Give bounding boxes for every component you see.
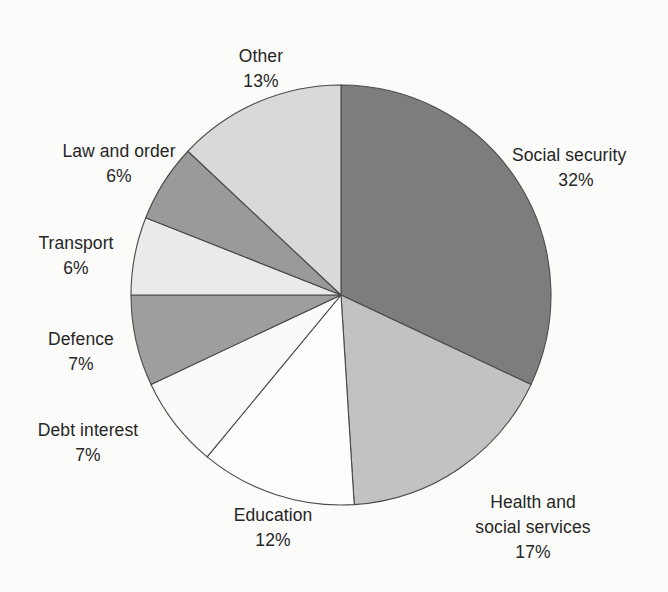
pie-label-other-value: 13% <box>196 69 326 94</box>
pie-label-health-line1: Health and <box>448 490 618 515</box>
pie-label-social-security-value: 32% <box>512 168 640 193</box>
pie-label-defence-value: 7% <box>26 352 136 377</box>
pie-label-transport-name: Transport <box>16 231 136 256</box>
pie-label-education-name: Education <box>208 503 338 528</box>
pie-label-education-value: 12% <box>208 528 338 553</box>
pie-label-social-security-name: Social security <box>512 143 662 168</box>
pie-label-health-value: 17% <box>448 540 618 565</box>
pie-label-debt-interest-name: Debt interest <box>18 418 158 443</box>
pie-label-education: Education 12% <box>208 503 338 553</box>
pie-label-law-and-order-name: Law and order <box>50 139 188 164</box>
pie-label-debt-interest: Debt interest 7% <box>18 418 158 468</box>
pie-label-transport-value: 6% <box>16 256 136 281</box>
pie-chart: Other 13% Social security 32% Law and or… <box>0 0 668 592</box>
pie-label-other: Other 13% <box>196 44 326 94</box>
pie-label-defence: Defence 7% <box>26 327 136 377</box>
pie-label-social-security: Social security 32% <box>512 143 662 193</box>
pie-label-debt-interest-value: 7% <box>18 443 158 468</box>
pie-label-defence-name: Defence <box>26 327 136 352</box>
pie-label-other-name: Other <box>196 44 326 69</box>
pie-label-health-line2: social services <box>448 515 618 540</box>
pie-label-law-and-order: Law and order 6% <box>50 139 188 189</box>
pie-slices-group <box>131 85 551 505</box>
pie-label-transport: Transport 6% <box>16 231 136 281</box>
pie-label-health-and-social-services: Health and social services 17% <box>448 490 618 565</box>
pie-label-law-and-order-value: 6% <box>50 164 188 189</box>
